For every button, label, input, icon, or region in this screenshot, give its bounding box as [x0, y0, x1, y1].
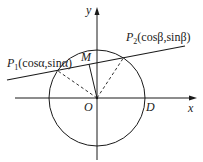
- x-axis-label: x: [188, 102, 193, 114]
- y-axis-label: y: [86, 4, 91, 16]
- origin-label: O: [84, 101, 93, 113]
- point-d-label: D: [146, 101, 155, 113]
- p1-coords: (cosα,sinα): [18, 56, 72, 70]
- x-axis-arrow-icon: [189, 96, 197, 101]
- radius-op2: [97, 57, 124, 98]
- p2-coords: (cosβ,sinβ): [137, 30, 190, 44]
- point-p2-label: P2(cosβ,sinβ): [126, 31, 191, 46]
- origin-dot: [96, 97, 98, 99]
- point-p1-label: P1(cosα,sinα): [7, 57, 72, 72]
- y-axis-arrow-icon: [95, 7, 100, 15]
- diagram-canvas: y x O D M P1(cosα,sinα) P2(cosβ,sinβ): [0, 0, 203, 162]
- diagram-svg: [0, 0, 203, 162]
- point-m-label: M: [81, 51, 91, 63]
